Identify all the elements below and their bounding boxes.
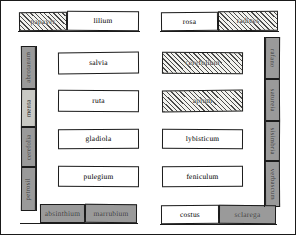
bed-label: marrubium xyxy=(93,210,128,218)
bed-label: menta xyxy=(25,99,32,117)
bed-radices: radices xyxy=(218,11,278,31)
bed-sclarega: sclarega xyxy=(219,205,276,224)
bed-label: papaver xyxy=(30,18,55,26)
garden-plan-diagram: papaver lilium rosa radices abrotanum me… xyxy=(0,0,296,235)
walkway-line-top-left xyxy=(18,31,140,32)
bed-label: sclarega xyxy=(234,211,260,219)
walkway-line-bottom-right xyxy=(160,224,277,225)
bed-left-3: cerefolia xyxy=(21,127,36,167)
bed-absinthium: absinthium xyxy=(40,204,85,223)
bed-feniculum: feniculum xyxy=(162,166,243,187)
bed-label: cerefolia xyxy=(25,134,32,160)
bed-label: rosa xyxy=(183,18,196,26)
bed-label: lilium xyxy=(93,17,112,25)
bed-right-2: satureia xyxy=(265,79,280,121)
bed-label: abrotanum xyxy=(25,52,32,83)
bed-cerefolium: cerefolium xyxy=(162,52,243,75)
bed-lybisticum: lybisticum xyxy=(162,129,243,149)
bed-lilium: lilium xyxy=(67,11,139,32)
walkway-line-right xyxy=(264,37,265,207)
bed-label: verbascum xyxy=(269,168,276,199)
bed-marrubium: marrubium xyxy=(85,204,137,223)
bed-salvia: salvia xyxy=(58,52,139,75)
bed-rosa: rosa xyxy=(161,12,218,32)
bed-label: rafano xyxy=(269,49,276,68)
bed-gladiola: gladiola xyxy=(58,129,139,149)
bed-label: feniculum xyxy=(186,173,218,181)
bed-papaver: papaver xyxy=(19,12,67,31)
bed-label: gladiola xyxy=(86,135,112,143)
bed-right-4: verbascum xyxy=(265,161,280,207)
bed-label: cerefolium xyxy=(185,59,220,67)
bed-right-1: rafano xyxy=(265,37,280,79)
bed-label: lybisticum xyxy=(186,135,220,143)
walkway-line-bottom-left xyxy=(20,223,138,224)
bed-right-3: sisimbria xyxy=(265,121,280,161)
bed-costus: costus xyxy=(161,205,219,224)
bed-left-4: petrosil xyxy=(21,167,36,211)
bed-label: absinthium xyxy=(45,210,80,218)
walkway-line-top-right xyxy=(160,31,279,32)
bed-label: petrosil xyxy=(25,178,32,200)
bed-left-2: menta xyxy=(21,89,36,127)
bed-label: sisimbria xyxy=(269,128,276,155)
bed-label: salvia xyxy=(89,59,108,67)
bed-label: satureia xyxy=(269,89,276,112)
bed-label: apium xyxy=(193,97,213,105)
bed-left-1: abrotanum xyxy=(21,46,36,89)
bed-label: ruta xyxy=(92,97,105,105)
bed-label: costus xyxy=(180,211,200,219)
walkway-line-left xyxy=(36,46,37,211)
bed-apium: apium xyxy=(162,90,243,113)
bed-label: radices xyxy=(237,17,260,25)
bed-label: pulegium xyxy=(84,173,114,181)
bed-pulegium: pulegium xyxy=(58,166,139,187)
bed-ruta: ruta xyxy=(58,90,139,113)
